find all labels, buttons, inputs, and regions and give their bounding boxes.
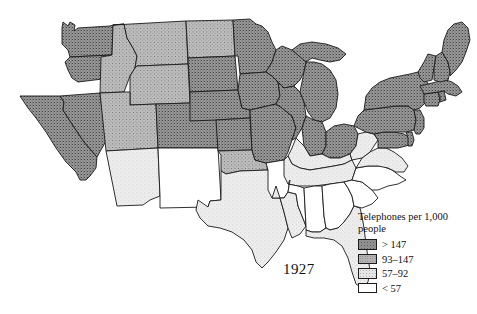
legend-row-low[interactable]: 57–92 [358, 267, 475, 280]
region-pennsylvania[interactable] [354, 106, 416, 134]
legend-swatch-dark-gray-icon [358, 239, 377, 250]
region-wyoming[interactable] [130, 64, 190, 105]
map-figure: 1927 Telephones per 1,000 people > 147 9… [0, 0, 477, 314]
legend-swatch-medium-gray-icon [358, 254, 377, 265]
legend-swatch-light-gray-icon [358, 268, 377, 279]
region-north-dakota[interactable] [186, 20, 235, 58]
region-washington[interactable] [62, 22, 113, 57]
legend-title-line-2: people [358, 223, 386, 234]
legend-swatch-white-icon [358, 283, 377, 294]
legend-label-high: > 147 [382, 239, 406, 250]
region-south-dakota[interactable] [188, 56, 238, 92]
region-vermont[interactable] [418, 54, 436, 82]
legend-label-low: 57–92 [382, 268, 408, 279]
map-year-label: 1927 [283, 261, 315, 278]
region-kansas[interactable] [216, 118, 252, 151]
legend-title-line-1: Telephones per 1,000 [358, 211, 448, 222]
legend-row-least[interactable]: < 57 [358, 282, 475, 295]
region-new-mexico[interactable] [158, 148, 221, 208]
region-arizona[interactable] [106, 148, 160, 206]
region-new-jersey[interactable] [414, 110, 424, 134]
legend-row-high[interactable]: > 147 [358, 238, 475, 251]
region-maryland[interactable] [374, 132, 412, 148]
legend-row-mid[interactable]: 93–147 [358, 253, 475, 266]
map-legend: Telephones per 1,000 people > 147 93–147… [358, 211, 475, 296]
legend-title: Telephones per 1,000 people [358, 211, 470, 234]
legend-label-least: < 57 [382, 283, 401, 294]
legend-label-mid: 93–147 [382, 254, 414, 265]
